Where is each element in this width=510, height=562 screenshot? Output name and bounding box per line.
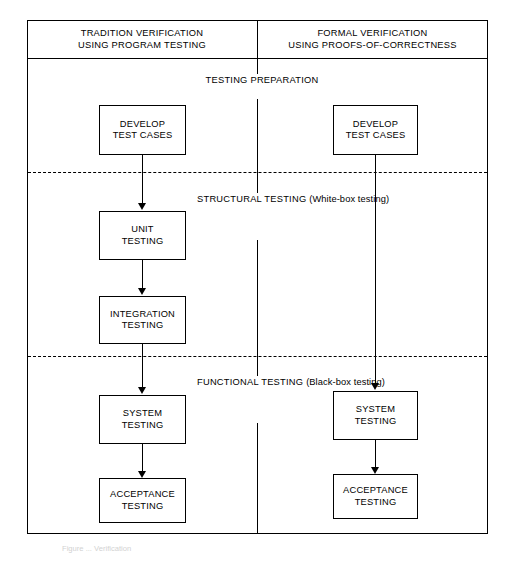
box-left-system-testing-line1: SYSTEM xyxy=(122,408,164,420)
box-left-develop-test-cases-line2: TEST CASES xyxy=(113,130,173,142)
box-right-system-testing-line2: TESTING xyxy=(355,416,397,428)
testing-process-diagram: TRADITION VERIFICATION USING PROGRAM TES… xyxy=(0,0,510,562)
box-right-acceptance-testing-line2: TESTING xyxy=(343,497,408,509)
column-divider-segment-header xyxy=(257,20,259,59)
box-left-develop-test-cases-line1: DEVELOP xyxy=(113,119,173,131)
column-divider-segment-2 xyxy=(257,99,259,173)
column-divider-segment-3 xyxy=(257,173,259,194)
stage-label-structural-testing-line2: TESTING xyxy=(264,194,306,204)
box-right-system-testing-line1: SYSTEM xyxy=(355,404,397,416)
stage-label-testing-preparation-line2: PREPARATION xyxy=(250,75,318,85)
stage-label-testing-preparation: TESTING PREPARATION xyxy=(197,74,327,86)
column-header-formal-line2: USING PROOFS-OF-CORRECTNESS xyxy=(288,39,456,51)
stage-label-functional-testing-line2: TESTING xyxy=(261,377,303,387)
box-left-system-testing-line2: TESTING xyxy=(122,420,164,432)
column-header-formal: FORMAL VERIFICATION USING PROOFS-OF-CORR… xyxy=(257,20,488,58)
arrowhead-left-acceptance xyxy=(138,471,146,478)
box-right-acceptance-testing-line1: ACCEPTANCE xyxy=(343,485,408,497)
box-left-integration-testing: INTEGRATION TESTING xyxy=(99,296,186,344)
connector-left-integration-to-system xyxy=(142,344,144,390)
box-left-develop-test-cases: DEVELOP TEST CASES xyxy=(99,105,186,155)
box-left-system-testing: SYSTEM TESTING xyxy=(99,395,186,444)
phase-separator-preparation-structural xyxy=(28,172,487,173)
box-left-integration-testing-line2: TESTING xyxy=(110,320,175,332)
stage-label-structural-testing-line1: STRUCTURAL xyxy=(197,194,262,204)
box-left-integration-testing-line1: INTEGRATION xyxy=(110,309,175,321)
column-divider-segment-4 xyxy=(257,240,259,356)
box-right-develop-test-cases-line2: TEST CASES xyxy=(346,130,406,142)
column-divider-segment-6 xyxy=(257,423,259,534)
column-header-traditional-line1: TRADITION VERIFICATION xyxy=(78,27,206,39)
stage-label-structural-testing-sub: (White-box testing) xyxy=(309,194,389,204)
arrowhead-left-unit xyxy=(138,203,146,210)
box-left-acceptance-testing-line1: ACCEPTANCE xyxy=(110,489,175,501)
box-left-unit-testing-line1: UNIT xyxy=(122,224,164,236)
arrowhead-right-system xyxy=(371,383,379,390)
connector-right-develop-to-system xyxy=(375,155,377,386)
column-header-formal-line1: FORMAL VERIFICATION xyxy=(288,27,456,39)
box-right-develop-test-cases-line1: DEVELOP xyxy=(346,119,406,131)
box-left-unit-testing: UNIT TESTING xyxy=(99,211,186,260)
column-header-traditional: TRADITION VERIFICATION USING PROGRAM TES… xyxy=(27,20,257,58)
figure-caption: Figure ... Verification xyxy=(62,544,362,554)
box-right-system-testing: SYSTEM TESTING xyxy=(333,391,418,440)
stage-label-functional-testing-line1: FUNCTIONAL xyxy=(197,377,259,387)
arrowhead-left-integration xyxy=(138,288,146,295)
column-divider-segment-1 xyxy=(257,59,259,75)
box-left-acceptance-testing-line2: TESTING xyxy=(110,501,175,513)
stage-label-structural-testing: STRUCTURAL TESTING (White-box testing) xyxy=(192,193,332,205)
column-divider-segment-5 xyxy=(257,356,259,377)
stage-label-testing-preparation-line1: TESTING xyxy=(206,75,248,85)
box-left-unit-testing-line2: TESTING xyxy=(122,236,164,248)
arrowhead-right-acceptance xyxy=(371,467,379,474)
column-header-traditional-line2: USING PROGRAM TESTING xyxy=(78,39,206,51)
box-left-acceptance-testing: ACCEPTANCE TESTING xyxy=(99,478,186,523)
box-right-acceptance-testing: ACCEPTANCE TESTING xyxy=(333,474,418,519)
stage-label-functional-testing: FUNCTIONAL TESTING (Black-box testing) xyxy=(192,376,332,388)
arrowhead-left-system xyxy=(138,387,146,394)
box-right-develop-test-cases: DEVELOP TEST CASES xyxy=(333,105,418,155)
connector-left-unit-to-integration xyxy=(142,260,144,291)
connector-left-develop-to-unit xyxy=(142,155,144,205)
phase-separator-structural-functional xyxy=(28,356,487,357)
